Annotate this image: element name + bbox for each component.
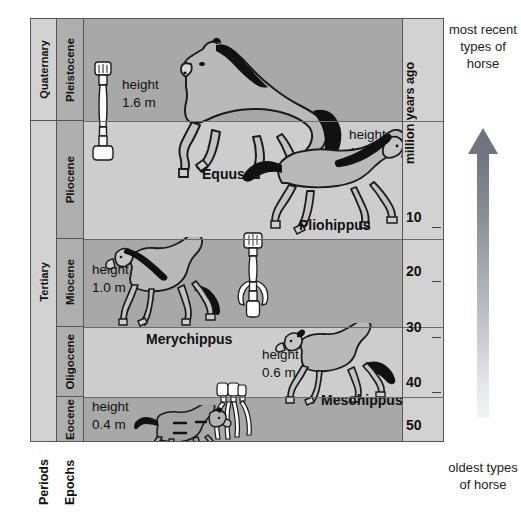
period-label-tertiary: Tertiary <box>38 262 50 302</box>
periods-column: Quaternary Tertiary <box>31 19 57 441</box>
tick-mark-30 <box>432 337 441 338</box>
bandline-1 <box>84 121 402 122</box>
tick-label-20: 20 <box>406 263 422 279</box>
chart-frame: Quaternary Tertiary Pleistocene Pliocene… <box>30 18 444 442</box>
bandline-3 <box>84 327 402 328</box>
arrow-shaft <box>477 152 489 418</box>
tick-label-50: 50 <box>406 417 422 433</box>
epoch-label-miocene: Miocene <box>64 259 76 305</box>
period-cell-tertiary: Tertiary <box>31 121 56 442</box>
scale-bandline-4 <box>403 397 443 398</box>
note-oldest: oldest types of horse <box>446 460 520 494</box>
hyracotherium-height-line2: 0.4 m <box>92 417 126 434</box>
horse-evolution-figure: Quaternary Tertiary Pleistocene Pliocene… <box>0 0 521 517</box>
epoch-cell-miocene: Miocene <box>57 239 83 327</box>
epochs-caption-wrap: Epochs <box>57 446 83 517</box>
epoch-label-oligocene: Oligocene <box>64 334 76 390</box>
period-label-quaternary: Quaternary <box>38 40 50 99</box>
species-name-merychippus: Merychippus <box>146 331 232 347</box>
equus-limb-bone-icon <box>90 59 116 163</box>
periods-caption: Periods <box>31 446 57 517</box>
epoch-label-pleistocene: Pleistocene <box>64 38 76 102</box>
epoch-cell-eocene: Eocene <box>57 397 83 442</box>
scale-bandline-2 <box>403 239 443 240</box>
tick-mark-10 <box>432 227 441 228</box>
epoch-label-eocene: Eocene <box>64 399 76 440</box>
bandline-2 <box>84 239 402 240</box>
epoch-cell-pliocene: Pliocene <box>57 121 83 239</box>
hyracotherium-illustration <box>130 405 240 441</box>
epoch-cell-oligocene: Oligocene <box>57 327 83 397</box>
scale-bandline-1 <box>403 121 443 122</box>
epoch-cell-pleistocene: Pleistocene <box>57 19 83 121</box>
time-direction-arrow <box>468 128 498 418</box>
tick-label-10: 10 <box>406 209 422 225</box>
tick-label-30: 30 <box>406 319 422 335</box>
hyracotherium-height-line1: height <box>92 399 129 416</box>
tick-mark-20 <box>432 281 441 282</box>
note-most-recent: most recent types of horse <box>446 22 520 73</box>
period-cell-quaternary: Quaternary <box>31 19 56 121</box>
species-name-pliohippus: Pliohippus <box>299 217 371 233</box>
epochs-caption: Epochs <box>57 446 83 517</box>
timescale-column: million years ago 10 20 30 40 50 <box>402 19 443 441</box>
arrow-head-icon <box>468 128 498 154</box>
species-name-mesohippus: Mesohippus <box>321 392 402 408</box>
illustration-area: height 1.6 m <box>84 19 402 441</box>
tick-label-40: 40 <box>406 374 422 390</box>
tick-mark-40 <box>432 392 441 393</box>
epoch-label-pliocene: Pliocene <box>64 156 76 203</box>
epochs-column: Pleistocene Pliocene Miocene Oligocene E… <box>57 19 84 441</box>
bandline-4 <box>84 397 402 398</box>
timescale-caption: million years ago <box>403 25 417 200</box>
periods-caption-wrap: Periods <box>31 446 57 517</box>
timescale-caption-wrap: million years ago <box>403 25 443 200</box>
merychippus-illustration <box>102 237 262 329</box>
